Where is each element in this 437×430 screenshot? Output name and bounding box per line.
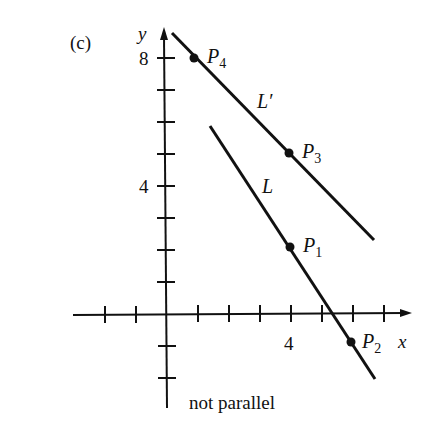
- x-axis-arrow-icon: [400, 309, 412, 317]
- point-P1: [286, 243, 295, 252]
- y-axis-label: y: [136, 23, 147, 44]
- line-label-L: L: [261, 175, 273, 197]
- point-P3: [285, 149, 294, 158]
- y-tick-label-4: 4: [139, 176, 149, 197]
- point-label-P1: P1: [302, 234, 322, 260]
- y-axis: [157, 27, 176, 408]
- x-axis: [73, 305, 412, 323]
- x-axis-label: x: [397, 331, 407, 352]
- line-L-prime: [172, 33, 374, 240]
- y-tick-label-8: 8: [139, 48, 149, 69]
- point-label-P4: P4: [206, 45, 226, 71]
- y-axis-arrow-icon: [160, 27, 168, 40]
- point-label-P2: P2: [361, 330, 381, 356]
- line-label-L-prime: L′: [256, 90, 273, 112]
- coordinate-diagram: (c) y x 8 4 4: [0, 0, 437, 430]
- panel-label: (c): [70, 32, 91, 54]
- point-label-P3: P3: [301, 140, 321, 166]
- point-P2: [347, 338, 356, 347]
- point-P4: [190, 54, 199, 63]
- x-tick-label-4: 4: [284, 333, 294, 354]
- caption: not parallel: [189, 392, 275, 413]
